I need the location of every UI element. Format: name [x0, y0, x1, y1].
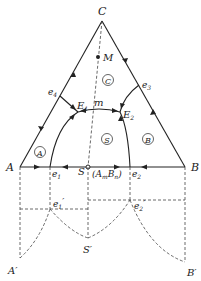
- arrow-icon: [34, 165, 40, 170]
- label-A: A: [5, 161, 14, 174]
- arrow-icon: [150, 109, 156, 115]
- boundary-e1-E1: [50, 112, 78, 167]
- label-e2-prime: e2′: [134, 199, 145, 212]
- arrow-icon: [62, 165, 68, 170]
- arrow-icon: [70, 104, 76, 110]
- label-S-prime: S′: [83, 244, 93, 255]
- label-C: C: [98, 5, 107, 18]
- label-A-prime: A′: [7, 265, 18, 276]
- label-M: M: [102, 52, 114, 63]
- arrow-icon: [141, 165, 147, 170]
- side-AC: [20, 21, 102, 167]
- label-e3: e3: [142, 80, 151, 91]
- label-B-prime: B′: [186, 267, 197, 278]
- point-M: [96, 55, 100, 59]
- phase-diagram: C A B M m S e4 e3 E1 E2 e1 e2 (AmBn) A S…: [0, 0, 201, 281]
- field-B: B: [143, 134, 154, 145]
- boundary-e3-E2: [120, 85, 139, 112]
- label-S: S: [78, 166, 85, 177]
- liquidus-S-right: [88, 200, 130, 238]
- label-m: m: [94, 97, 103, 108]
- liquidus-S-left: [50, 209, 88, 238]
- label-E1: E1: [76, 100, 88, 112]
- label-e4: e4: [48, 87, 57, 98]
- field-C: C: [103, 75, 114, 86]
- svg-text:B: B: [144, 136, 151, 145]
- label-e1: e1: [52, 169, 61, 180]
- liquidus-A: [20, 209, 50, 258]
- field-S: S: [102, 134, 113, 145]
- field-A: A: [35, 147, 46, 158]
- label-e1-prime: e1′: [53, 197, 64, 210]
- svg-text:S: S: [104, 136, 110, 145]
- label-B: B: [190, 161, 199, 174]
- arrow-icon: [112, 108, 118, 113]
- label-e2: e2: [132, 169, 141, 180]
- svg-text:A: A: [36, 149, 43, 158]
- label-compound: (AmBn): [92, 169, 122, 180]
- svg-text:C: C: [105, 77, 111, 86]
- side-BC: [102, 21, 185, 167]
- label-E2: E2: [122, 109, 134, 121]
